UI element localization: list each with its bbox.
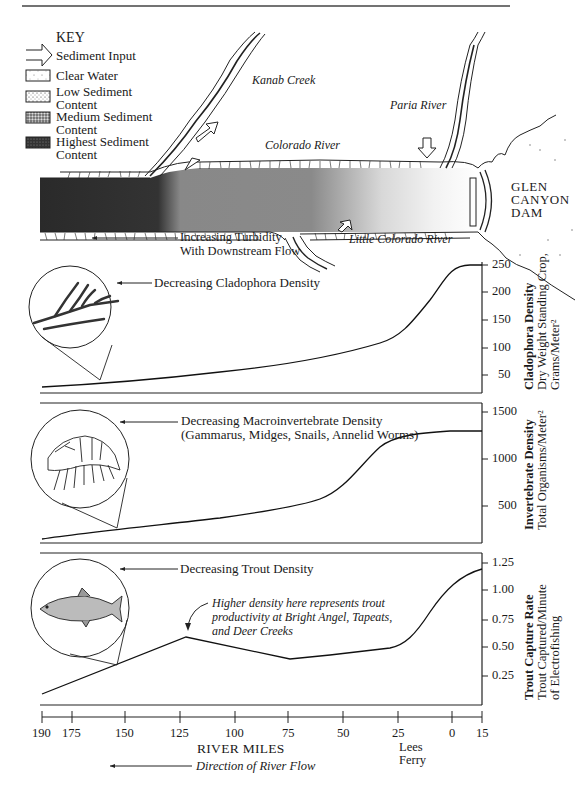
cladophora-magnifier-circle [29, 266, 111, 348]
key-sediment-arrow-icon [26, 44, 52, 66]
trout-note: Higher density here represents trout pro… [212, 596, 392, 638]
paria-river-illustration [440, 32, 485, 168]
trout-axis-ticks [482, 563, 488, 676]
colorado-river-label: Colorado River [265, 138, 340, 152]
invertebrate-y-axis-label: Invertebrate Density Total Organisms/Met… [523, 410, 549, 530]
invertebrate-tick-1000: 1000 [492, 451, 517, 466]
invertebrate-annotation: Decreasing Macroinvertebrate Density (Ga… [181, 414, 418, 442]
trout-tick-0.75: 0.75 [492, 612, 514, 627]
lees-ferry-label: Lees Ferry [399, 741, 426, 767]
xtick-50: 50 [337, 726, 350, 741]
low-sediment-swatch-icon [26, 91, 50, 102]
cladophora-tick-50: 50 [498, 367, 511, 382]
kanab-creek-illustration [145, 32, 265, 176]
trout-note-arrow [188, 603, 208, 625]
cladophora-tick-200: 200 [492, 284, 511, 299]
trout-tick-0.25: 0.25 [492, 668, 514, 683]
key-label-low-sediment: Low SedimentContent [56, 85, 132, 111]
xtick-125: 125 [170, 726, 189, 741]
clear-water-swatch-icon [26, 70, 50, 81]
invertebrate-axis-ticks [482, 412, 488, 506]
colorado-river-illustration [40, 160, 478, 240]
xtick-25: 25 [392, 726, 405, 741]
xtick-15: 15 [476, 726, 489, 741]
key-label-highest-sediment: Highest SedimentContent [56, 135, 149, 161]
kanab-sediment-arrow-icon [196, 122, 218, 142]
key-label-medium-sediment: Medium SedimentContent [56, 110, 152, 136]
kanab-creek-label: Kanab Creek [252, 73, 315, 87]
trout-y-axis-label: Trout Capture Rate Trout Captured/Minute… [523, 584, 562, 700]
medium-sediment-swatch-icon [26, 112, 50, 123]
invertebrate-tick-1500: 1500 [492, 404, 517, 419]
key-title: KEY [56, 30, 85, 46]
xtick-190: 190 [32, 726, 51, 741]
xtick-75: 75 [282, 726, 295, 741]
key-label-sediment-input: Sediment Input [56, 49, 136, 62]
cladophora-tick-250: 250 [492, 257, 511, 272]
invertebrate-tick-500: 500 [498, 498, 517, 513]
xtick-150: 150 [115, 726, 134, 741]
xtick-100: 100 [225, 726, 244, 741]
cladophora-y-axis-label: Cladophora Density Dry Weight Standing C… [523, 253, 562, 390]
key-label-clear-water: Clear Water [56, 69, 118, 82]
cladophora-tick-100: 100 [492, 340, 511, 355]
paria-sediment-arrow-icon [418, 138, 436, 158]
xtick-0: 0 [449, 726, 455, 741]
trout-tick-1.25: 1.25 [492, 555, 514, 570]
turbidity-label: Increasing Turbidity With Downstream Flo… [180, 230, 300, 258]
flow-direction-label: Direction of River Flow [196, 759, 315, 773]
flow-direction-arrow-icon [110, 764, 115, 768]
cladophora-tick-150: 150 [492, 312, 511, 327]
highest-sediment-swatch-icon [26, 137, 50, 148]
paria-river-label: Paria River [390, 98, 446, 112]
cladophora-annotation: Decreasing Cladophora Density [154, 276, 320, 290]
river-miles-label: RIVER MILES [197, 742, 285, 756]
trout-tick-1.00: 1.00 [492, 582, 514, 597]
little-colorado-river-label: Little Colorado River [349, 232, 452, 246]
cladophora-axis-ticks [482, 265, 488, 375]
glen-canyon-dam-label: GLEN CANYON DAM [511, 180, 570, 219]
xtick-175: 175 [62, 726, 81, 741]
trout-tick-0.50: 0.50 [492, 639, 514, 654]
trout-annotation: Decreasing Trout Density [180, 562, 314, 576]
